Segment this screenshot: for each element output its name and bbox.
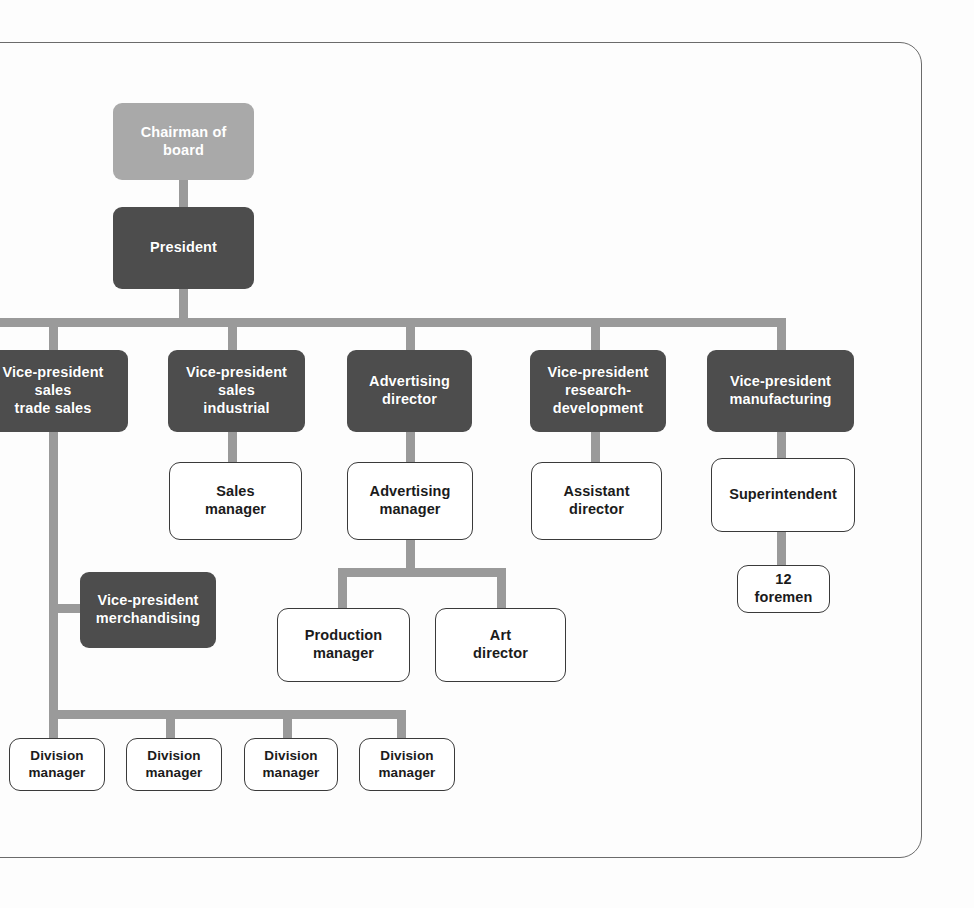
connector-bus-advertising-director	[406, 318, 415, 352]
node-label: Art director	[467, 627, 534, 662]
node-vp-sales-trade-sales[interactable]: Vice-president sales trade sales	[0, 350, 128, 432]
node-sales-manager[interactable]: Sales manager	[169, 462, 302, 540]
node-vp-merchandising[interactable]: Vice-president merchandising	[80, 572, 216, 648]
node-vp-research-development[interactable]: Vice-president research- development	[530, 350, 666, 432]
node-division-manager-4[interactable]: Division manager	[359, 738, 455, 791]
connector-advertising-director-manager	[406, 428, 415, 464]
connector-division-bus	[49, 710, 406, 719]
node-label: Vice-president manufacturing	[724, 373, 838, 408]
connector-vp-trade-spine	[49, 428, 58, 718]
node-label: Production manager	[299, 627, 389, 662]
node-division-manager-1[interactable]: Division manager	[9, 738, 105, 791]
connector-chairman-president	[179, 178, 188, 210]
node-assistant-director[interactable]: Assistant director	[531, 462, 662, 540]
node-label: Vice-president sales industrial	[180, 364, 293, 417]
node-advertising-director[interactable]: Advertising director	[347, 350, 472, 432]
connector-advertising-manager-drop	[406, 538, 415, 572]
node-label: Assistant director	[557, 483, 635, 518]
connector-sub-art-director	[497, 568, 506, 612]
node-label: President	[144, 239, 223, 257]
connector-executive-bus	[0, 318, 786, 327]
connector-superintendent-foremen	[777, 528, 786, 570]
connector-advertising-sub-bus	[338, 568, 506, 577]
connector-president-bus	[179, 288, 188, 322]
connector-vp-research-assistant-director	[591, 428, 600, 464]
node-division-manager-2[interactable]: Division manager	[126, 738, 222, 791]
connector-bus-vp-manufacturing	[777, 318, 786, 352]
node-art-director[interactable]: Art director	[435, 608, 566, 682]
node-label: Sales manager	[199, 483, 272, 518]
connector-sub-production-manager	[338, 568, 347, 612]
node-label: Vice-president merchandising	[90, 592, 206, 627]
node-superintendent[interactable]: Superintendent	[711, 458, 855, 532]
node-label: Division manager	[23, 748, 92, 781]
node-label: Superintendent	[723, 486, 843, 504]
node-label: Chairman of board	[113, 124, 254, 159]
node-label: Division manager	[140, 748, 209, 781]
node-label: Vice-president sales trade sales	[0, 364, 110, 417]
node-division-manager-3[interactable]: Division manager	[244, 738, 338, 791]
connector-bus-vp-trade	[49, 318, 58, 352]
node-label: Vice-president research- development	[541, 364, 654, 417]
node-production-manager[interactable]: Production manager	[277, 608, 410, 682]
node-president[interactable]: President	[113, 207, 254, 289]
node-label: 12 foremen	[749, 571, 819, 606]
node-vp-sales-industrial[interactable]: Vice-president sales industrial	[168, 350, 305, 432]
org-chart-canvas: Chairman of board President Vice-preside…	[0, 0, 974, 908]
node-label: Division manager	[373, 748, 442, 781]
node-vp-manufacturing[interactable]: Vice-president manufacturing	[707, 350, 854, 432]
connector-bus-vp-industrial	[228, 318, 237, 352]
node-label: Advertising director	[363, 373, 456, 408]
connector-vp-industrial-sales-manager	[228, 428, 237, 464]
node-label: Advertising manager	[364, 483, 457, 518]
node-advertising-manager[interactable]: Advertising manager	[347, 462, 473, 540]
connector-bus-vp-research	[591, 318, 600, 352]
node-12-foremen[interactable]: 12 foremen	[737, 565, 830, 613]
node-chairman-of-board[interactable]: Chairman of board	[113, 103, 254, 180]
node-label: Division manager	[257, 748, 326, 781]
